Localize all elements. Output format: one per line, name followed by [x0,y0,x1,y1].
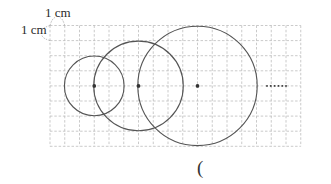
circle-3-center-dot [196,84,200,88]
ellipsis-dot [270,85,272,87]
answer-blank-parenthesis: ( [197,158,203,177]
circle-2-center-dot [137,84,141,88]
grid [50,26,301,147]
circle-1-center-dot [92,84,96,88]
ellipsis-dot [281,85,283,87]
unit-label-vertical: 1 cm [21,23,47,36]
circle-pattern-figure: 1 cm 1 cm ( [0,0,331,184]
ellipsis-dot [266,85,268,87]
grid-and-circles [0,0,331,184]
ellipsis-dot [285,85,287,87]
ellipsis-dot [274,85,276,87]
unit-label-horizontal: 1 cm [45,6,71,19]
ellipsis-dot [277,85,279,87]
